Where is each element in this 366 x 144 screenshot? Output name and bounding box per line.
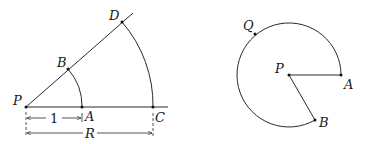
point-b: [67, 68, 70, 71]
unit-dimension: 1: [27, 111, 81, 126]
label-c: C: [155, 110, 165, 125]
label-p: P: [12, 93, 22, 108]
label-a2: A: [343, 77, 353, 92]
unit-label: 1: [50, 111, 58, 126]
label-p2: P: [274, 61, 284, 76]
point-a: [81, 106, 84, 109]
ray-pd: [26, 13, 133, 107]
point-b2: [314, 119, 317, 122]
left-figure: P A B C D 1 R: [12, 8, 168, 141]
label-b2: B: [318, 115, 329, 130]
label-d: D: [108, 8, 120, 23]
diagram-canvas: P A B C D 1 R P A B Q: [0, 0, 366, 144]
radius-label: R: [84, 126, 95, 141]
diagram-svg: P A B C D 1 R P A B Q: [0, 0, 366, 144]
radius-pb: [289, 75, 315, 120]
point-p2: [288, 74, 291, 77]
label-q: Q: [243, 18, 254, 33]
arc-ab: [68, 69, 82, 107]
point-p: [25, 106, 28, 109]
radius-dimension: R: [27, 126, 152, 141]
point-c: [152, 106, 155, 109]
point-a2: [340, 74, 343, 77]
label-a: A: [84, 109, 94, 124]
point-q: [254, 33, 257, 36]
arc-cd: [122, 22, 153, 107]
point-d: [121, 21, 124, 24]
label-b: B: [56, 55, 67, 70]
right-figure: P A B Q: [237, 18, 353, 130]
